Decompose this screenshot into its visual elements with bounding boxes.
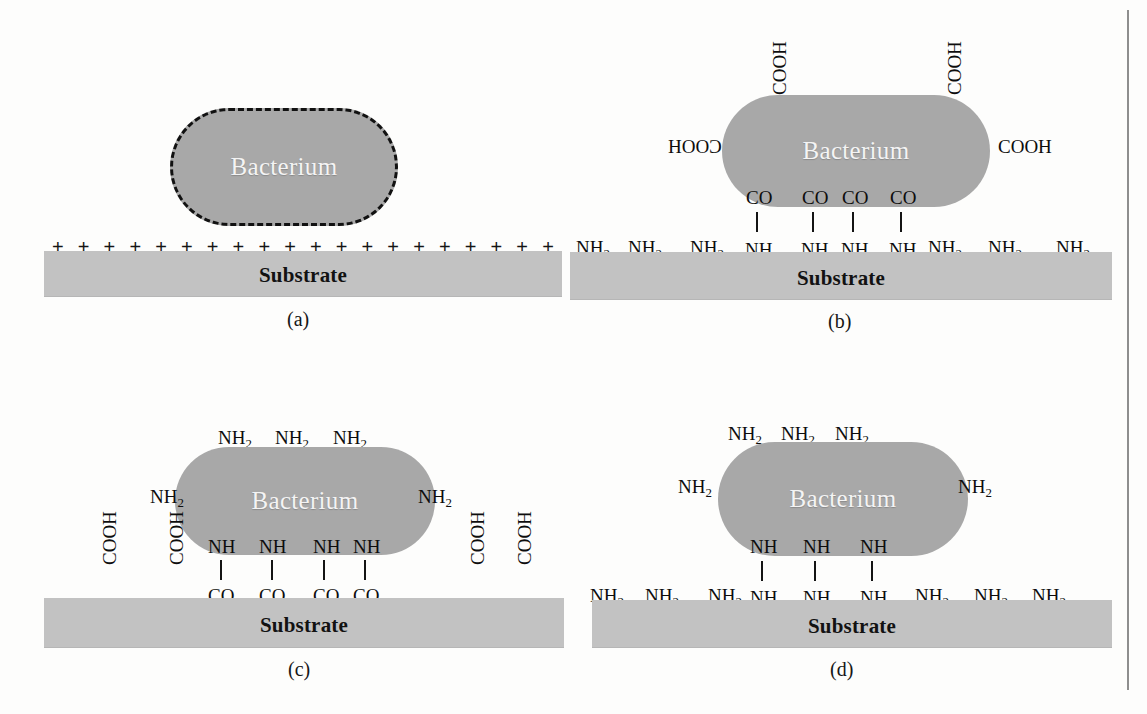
bond-line-c [220,560,222,580]
co-group-b: CO [802,188,828,207]
nh2-group-right-c: NH2 [418,487,452,510]
nh2-group-left-d: NH2 [678,477,712,500]
nh2-group-top-d: NH2 [728,424,762,447]
substrate-bar-a: Substrate [44,251,562,297]
figure-canvas: Bacterium + + + + + + + + + + + + + + + … [0,0,1147,714]
bacterium-shape-a: Bacterium [170,108,398,226]
panel-caption-c: (c) [288,658,310,681]
panel-a: Bacterium + + + + + + + + + + + + + + + … [0,0,570,350]
cooh-group-top-left-b: COOH [770,41,789,95]
co-group-b: CO [842,188,868,207]
bacterium-label-c: Bacterium [252,487,359,515]
bond-line-c [364,560,366,580]
bond-line-d [814,561,816,581]
bond-line-c [323,560,325,580]
bond-line-b [900,212,902,232]
nh2-group-left-c: NH2 [150,487,184,510]
nh-group-bacterium-d: NH [803,537,830,556]
nh-group-bacterium-d: NH [750,537,777,556]
bond-line-b [812,212,814,232]
cooh-group-right-b: COOH [998,137,1052,156]
bond-line-b [756,212,758,232]
substrate-label-b: Substrate [570,266,1112,291]
panel-caption-d: (d) [830,658,853,681]
substrate-label-d: Substrate [592,614,1112,639]
cooh-group-right-c: COOH [515,511,534,565]
panel-caption-a: (a) [287,308,309,331]
cooh-group-left-c: COOH [100,511,119,565]
co-group-b: CO [746,188,772,207]
bacterium-label-b: Bacterium [803,137,910,165]
substrate-bar-d: Substrate [592,600,1112,648]
hooc-group-left-b: COOH [668,137,722,156]
bond-line-d [871,561,873,581]
substrate-label-a: Substrate [44,263,562,288]
bond-line-b [852,212,854,232]
nh2-group-right-d: NH2 [958,477,992,500]
cooh-group-top-right-b: COOH [945,41,964,95]
nh-group-c: NH [353,537,380,556]
nh-group-bacterium-d: NH [860,537,887,556]
substrate-bar-c: Substrate [44,598,564,648]
nh-group-c: NH [208,537,235,556]
bond-line-d [761,561,763,581]
bond-line-c [271,560,273,580]
page-edge-line [1127,10,1129,690]
cooh-group-left-c: COOH [167,511,186,565]
substrate-label-c: Substrate [44,613,564,638]
bacterium-label-d: Bacterium [790,485,897,513]
bacterium-label-a: Bacterium [231,153,338,181]
nh-group-c: NH [259,537,286,556]
panel-d: NH2 NH2 NH2 Bacterium NH2 NH2 NH NH NH N… [570,400,1147,714]
co-group-b: CO [890,188,916,207]
nh-group-c: NH [313,537,340,556]
cooh-group-right-c: COOH [468,511,487,565]
panel-b: COOH COOH Bacterium COOH COOH CO CO CO C… [570,0,1147,350]
panel-c: NH2 NH2 NH2 Bacterium NH2 NH2 NH NH NH N… [0,400,570,714]
panel-caption-b: (b) [828,310,851,333]
substrate-bar-b: Substrate [570,252,1112,300]
